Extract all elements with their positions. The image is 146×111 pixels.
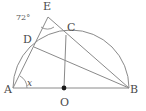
vertex-label-a: A <box>4 84 12 95</box>
radius-oc-line <box>64 35 66 88</box>
vertex-label-b: B <box>130 84 138 95</box>
center-point-dot <box>62 86 67 91</box>
vertex-label-o: O <box>60 97 69 108</box>
angle-label-72-degrees: 72° <box>16 14 30 22</box>
vertex-label-e: E <box>43 1 51 12</box>
vertex-label-c: C <box>67 22 75 33</box>
angle-arc-at-a <box>20 76 27 88</box>
vertex-label-d: D <box>23 34 32 45</box>
geometry-figure: E C D A B O 72° x <box>0 0 146 111</box>
angle-label-x: x <box>27 79 32 88</box>
chord-db-line <box>34 47 129 88</box>
